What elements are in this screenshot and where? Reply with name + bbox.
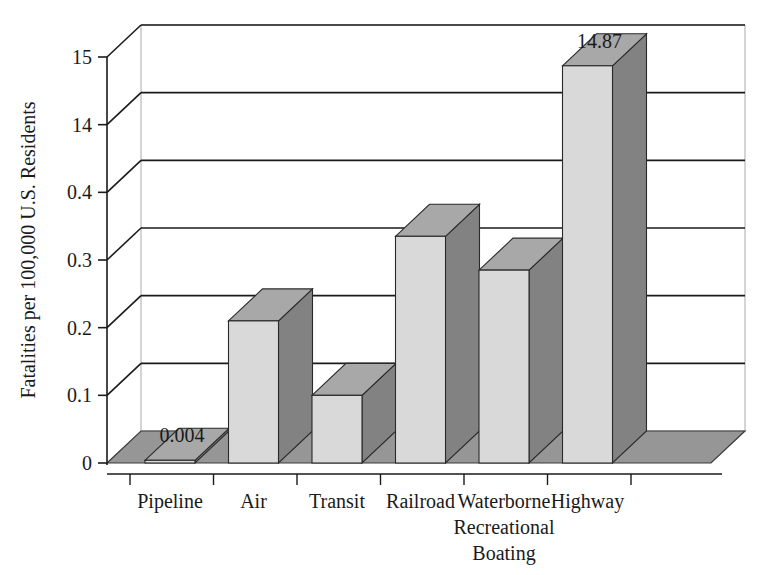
y-axis-title: Fatalities per 100,000 U.S. Residents — [17, 101, 40, 398]
y-tick-label-0.4: 0.4 — [67, 181, 92, 203]
value-label-highway: 14.87 — [577, 30, 622, 52]
gridline-depth-0.1 — [107, 363, 141, 395]
category-label-pipeline: Pipeline — [137, 490, 203, 513]
bar-air — [229, 289, 313, 463]
y-tick-label-14: 14 — [72, 114, 92, 136]
y-tick-label-0.1: 0.1 — [67, 384, 92, 406]
gridline-depth-0.3 — [107, 228, 141, 260]
category-label-waterborne: Waterborne — [458, 490, 551, 512]
category-label-railroad: Railroad — [386, 490, 455, 512]
y-tick-label-15: 15 — [72, 46, 92, 68]
gridline-depth-15 — [107, 25, 141, 57]
category-label-air: Air — [240, 490, 267, 512]
category-labels: PipelineAirTransitRailroadWaterborneRecr… — [137, 490, 624, 565]
bar-waterborne — [479, 238, 563, 463]
x-axis-ticks — [130, 474, 631, 485]
fatalities-bar-chart: 00.10.20.30.41415 PipelineAirTransitRail… — [0, 0, 758, 575]
category-label-highway: Highway — [551, 490, 624, 513]
y-tick-label-0.2: 0.2 — [67, 317, 92, 339]
bar-highway — [563, 34, 647, 463]
category-label-waterborne: Recreational — [453, 516, 554, 538]
category-label-transit: Transit — [309, 490, 365, 512]
gridline-depth-14 — [107, 93, 141, 125]
category-label-waterborne: Boating — [472, 542, 535, 565]
y-tick-label-0: 0 — [82, 452, 92, 474]
y-axis-ticks: 00.10.20.30.41415 — [67, 46, 107, 474]
value-label-pipeline: 0.004 — [160, 424, 205, 446]
gridline-depth-0.4 — [107, 160, 141, 192]
gridline-depth-0.2 — [107, 296, 141, 328]
bar-railroad — [396, 204, 480, 463]
y-tick-label-0.3: 0.3 — [67, 249, 92, 271]
chart-container: 00.10.20.30.41415 PipelineAirTransitRail… — [0, 0, 758, 575]
y-axis-title-text: Fatalities per 100,000 U.S. Residents — [17, 101, 40, 398]
